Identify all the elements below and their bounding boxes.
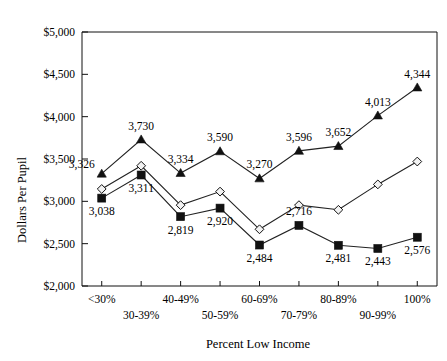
marker-square	[98, 194, 106, 202]
x-axis-ticks	[102, 281, 418, 286]
data-point-label: 3,311	[128, 182, 154, 195]
marker-square	[256, 241, 264, 249]
x-axis-category-labels: <30%30-39%40-49%50-59%60-69%70-79%80-89%…	[88, 293, 431, 321]
marker-triangle	[215, 147, 224, 155]
x-category-label: 70-79%	[281, 309, 318, 321]
data-point-label: 2,819	[168, 224, 194, 237]
marker-square	[216, 204, 224, 212]
x-category-label: 40-49%	[162, 293, 199, 305]
y-tick-label: $2,000	[43, 280, 75, 293]
data-point-label: 3,652	[325, 126, 351, 139]
marker-square	[334, 241, 342, 249]
data-point-label: 4,013	[365, 96, 391, 109]
x-category-label: 90-99%	[360, 309, 397, 321]
chart-container: $2,000$2,500$3,000$3,500$4,000$4,500$5,0…	[0, 0, 447, 361]
x-axis-title: Percent Low Income	[206, 337, 311, 351]
y-axis-title: Dollars Per Pupil	[15, 156, 29, 243]
data-point-label: 2,443	[365, 255, 391, 268]
x-category-label: 80-89%	[320, 293, 357, 305]
marker-square	[295, 221, 303, 229]
series-path	[102, 162, 418, 230]
data-point-label: 3,590	[207, 131, 233, 144]
y-tick-label: $4,500	[43, 68, 75, 81]
marker-square	[413, 233, 421, 241]
data-point-label: 3,270	[247, 158, 273, 171]
marker-diamond	[97, 185, 106, 194]
marker-diamond	[334, 205, 343, 214]
marker-triangle	[413, 83, 422, 91]
marker-triangle	[137, 135, 146, 143]
marker-triangle	[373, 111, 382, 119]
data-point-label: 4,344	[404, 68, 430, 81]
x-category-label: 100%	[404, 293, 431, 305]
data-point-label: 2,716	[286, 205, 312, 218]
data-point-label: 2,484	[247, 252, 273, 265]
data-point-label: 3,334	[168, 153, 194, 166]
y-tick-label: $2,500	[43, 238, 75, 251]
marker-triangle	[255, 174, 264, 182]
data-point-label: 2,481	[325, 252, 351, 265]
x-category-label: 50-59%	[202, 309, 239, 321]
data-point-label: 3,730	[128, 120, 154, 133]
data-point-label: 2,576	[404, 244, 430, 257]
marker-diamond	[373, 180, 382, 189]
marker-triangle	[334, 142, 343, 150]
line-chart: $2,000$2,500$3,000$3,500$4,000$4,500$5,0…	[0, 0, 447, 361]
x-category-label: 60-69%	[241, 293, 278, 305]
x-category-label: 30-39%	[123, 309, 160, 321]
x-category-label: <30%	[88, 293, 116, 305]
y-tick-label: $4,000	[43, 111, 75, 124]
marker-square	[137, 171, 145, 179]
marker-square	[177, 213, 185, 221]
y-tick-label: $3,000	[43, 195, 75, 208]
data-point-label: 3,038	[89, 205, 115, 218]
data-point-labels: 3,3263,7303,3343,5903,2703,5963,6524,013…	[69, 68, 431, 269]
y-tick-label: $5,000	[43, 26, 75, 39]
marker-square	[374, 244, 382, 252]
data-point-label: 3,596	[286, 131, 312, 144]
data-point-label: 2,920	[207, 215, 233, 228]
marker-diamond	[413, 157, 422, 166]
data-point-label: 3,326	[69, 158, 95, 171]
